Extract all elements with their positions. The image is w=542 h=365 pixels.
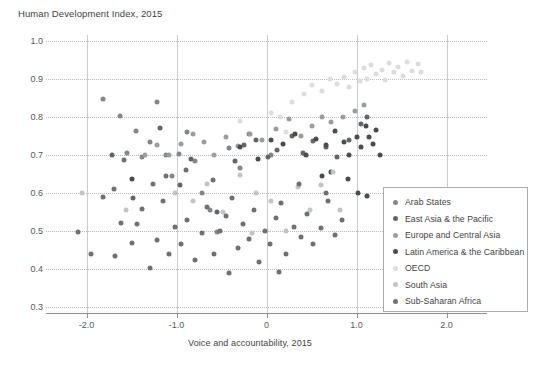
data-point (332, 232, 337, 237)
data-point (365, 76, 370, 81)
data-point (269, 137, 274, 142)
data-point (341, 114, 346, 119)
legend-item[interactable]: Latin America & the Caribbean (384, 244, 527, 261)
data-point (147, 139, 152, 144)
data-point (352, 109, 357, 114)
data-point (419, 69, 424, 74)
data-point (320, 173, 325, 178)
data-point (172, 225, 177, 230)
gridline-vertical (177, 35, 178, 313)
data-point (311, 242, 316, 247)
data-point (246, 236, 251, 241)
data-point (161, 198, 166, 203)
data-point (334, 155, 339, 160)
data-point (125, 150, 130, 155)
legend-item-label: East Asia & the Pacific (405, 214, 493, 224)
data-point (361, 103, 366, 108)
data-point (338, 207, 343, 212)
data-point (334, 81, 339, 86)
data-point (318, 183, 323, 188)
data-point (167, 251, 172, 256)
legend-item[interactable]: Sub-Saharan Africa (384, 293, 527, 310)
data-point (190, 131, 195, 136)
data-point (320, 88, 325, 93)
data-point (237, 144, 242, 149)
data-point (340, 217, 345, 222)
data-point (314, 137, 319, 142)
legend-marker-icon (393, 282, 398, 287)
data-point (205, 181, 210, 186)
data-point (284, 130, 289, 135)
data-point (377, 152, 382, 157)
data-point (262, 229, 267, 234)
data-point (374, 128, 379, 133)
data-point (361, 66, 366, 71)
y-axis-tick-label: 0.9 (3, 74, 43, 84)
data-point (237, 165, 242, 170)
y-axis-tick-label: 1.0 (3, 36, 43, 46)
data-point (302, 92, 307, 97)
data-point (341, 74, 346, 79)
gridline-vertical (267, 35, 268, 313)
data-point (341, 139, 346, 144)
data-point (109, 152, 114, 157)
data-point (305, 211, 310, 216)
data-point (323, 142, 328, 147)
data-point (273, 127, 278, 132)
data-point (122, 157, 127, 162)
data-point (287, 116, 292, 121)
data-point (134, 221, 139, 226)
data-point (365, 114, 370, 119)
data-point (260, 137, 265, 142)
data-point (374, 71, 379, 76)
data-point (151, 181, 156, 186)
legend-marker-icon (393, 249, 398, 254)
data-point (215, 210, 220, 215)
data-point (248, 131, 253, 136)
x-axis-tick-label: 0 (264, 320, 269, 330)
data-point (199, 191, 204, 196)
legend-marker-icon (393, 216, 398, 221)
y-axis-tick-label: 0.5 (3, 226, 43, 236)
data-point (320, 114, 325, 119)
data-point (277, 270, 282, 275)
data-point (250, 231, 255, 236)
legend-item[interactable]: Arab States (384, 194, 527, 211)
data-point (255, 156, 260, 161)
data-point (284, 251, 289, 256)
data-point (190, 199, 195, 204)
data-point (235, 246, 240, 251)
data-point (100, 96, 105, 101)
data-point (367, 135, 372, 140)
data-point (192, 258, 197, 263)
data-point (329, 120, 334, 125)
legend-item[interactable]: Europe and Central Asia (384, 227, 527, 244)
data-point (154, 99, 159, 104)
data-point (309, 82, 314, 87)
legend-item-label: Latin America & the Caribbean (405, 247, 524, 257)
data-point (201, 139, 206, 144)
data-point (111, 187, 116, 192)
data-point (179, 141, 184, 146)
legend-item[interactable]: OECD (384, 260, 527, 277)
data-point (278, 114, 283, 119)
legend-item-label: South Asia (405, 280, 447, 290)
y-axis-tick-label: 0.4 (3, 264, 43, 274)
data-point (210, 177, 215, 182)
y-axis-tick-label: 0.6 (3, 188, 43, 198)
data-point (410, 69, 415, 74)
data-point (296, 181, 301, 186)
legend-item[interactable]: South Asia (384, 277, 527, 294)
data-point (257, 259, 262, 264)
legend-item[interactable]: East Asia & the Pacific (384, 211, 527, 228)
data-point (199, 231, 204, 236)
data-point (185, 217, 190, 222)
data-point (392, 69, 397, 74)
data-point (217, 229, 222, 234)
data-point (183, 168, 188, 173)
data-point (212, 152, 217, 157)
data-point (158, 125, 163, 130)
data-point (298, 234, 303, 239)
data-point (163, 173, 168, 178)
data-point (237, 118, 242, 123)
